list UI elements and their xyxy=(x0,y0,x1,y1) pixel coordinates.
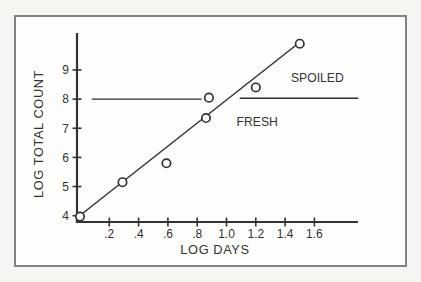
x-tick-label: .4 xyxy=(134,227,144,241)
x-tick-label: .2 xyxy=(104,227,114,241)
data-point xyxy=(202,114,210,122)
x-tick-label: 1.6 xyxy=(306,227,323,241)
region-label-fresh: FRESH xyxy=(237,115,278,129)
y-tick-label: 7 xyxy=(62,122,69,136)
y-tick-label: 6 xyxy=(62,151,69,165)
y-tick-label: 4 xyxy=(62,209,69,223)
x-tick-label: 1.0 xyxy=(218,227,235,241)
chart-canvas: LOG TOTAL COUNT LOG DAYS 456789.2.4.6.81… xyxy=(0,0,421,282)
data-point xyxy=(162,159,170,167)
data-point xyxy=(76,212,84,220)
trend-line xyxy=(77,42,300,217)
x-tick-label: 1.4 xyxy=(277,227,294,241)
x-tick-label: .6 xyxy=(163,227,173,241)
x-tick-label: 1.2 xyxy=(247,227,264,241)
y-axis-title: LOG TOTAL COUNT xyxy=(31,70,46,198)
x-tick-label: .8 xyxy=(192,227,202,241)
data-point xyxy=(252,83,260,91)
y-tick-label: 5 xyxy=(62,180,69,194)
y-tick-label: 8 xyxy=(62,92,69,106)
y-tick-label: 9 xyxy=(62,63,69,77)
chart-marks: 456789.2.4.6.81.01.21.41.6SPOILEDFRESH xyxy=(62,33,358,241)
data-point xyxy=(296,40,304,48)
data-point xyxy=(118,178,126,186)
x-axis-title: LOG DAYS xyxy=(180,242,249,257)
region-label-spoiled: SPOILED xyxy=(291,71,344,85)
data-point xyxy=(205,93,213,101)
